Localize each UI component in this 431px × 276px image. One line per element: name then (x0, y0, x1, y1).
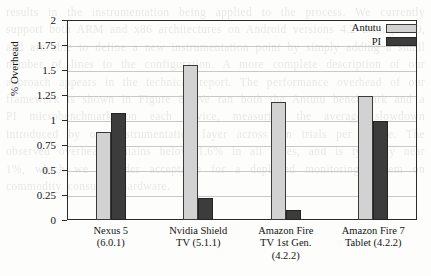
legend-label-antutu: Antutu (352, 23, 381, 34)
legend-label-pi: PI (372, 37, 381, 48)
bar-pi-2 (286, 210, 301, 220)
y-tick-mark (62, 220, 67, 221)
y-tick-label: 1 (0, 115, 56, 126)
bar-antutu-2 (271, 102, 286, 220)
y-tick-label: 0 (0, 215, 56, 226)
bar-antutu-3 (358, 96, 373, 220)
y-tick-label: 0.5 (0, 165, 56, 176)
legend: Antutu PI (352, 23, 417, 47)
y-tick-label: 0.25 (0, 190, 56, 201)
bar-pi-1 (198, 198, 213, 220)
legend-item-pi: PI (372, 37, 417, 48)
bar-antutu-1 (183, 65, 198, 220)
bar-antutu-0 (96, 132, 111, 220)
x-category-label-1: Nvidia Shield TV (5.1.1) (149, 225, 249, 250)
x-category-label-3: Amazon Fire 7 Tablet (4.2.2) (324, 225, 424, 250)
y-tick-label: 1.75 (0, 40, 56, 51)
y-tick-label: 1.5 (0, 65, 56, 76)
bars-layer (67, 20, 417, 220)
y-tick-label: 2 (0, 15, 56, 26)
legend-swatch-pi (386, 37, 417, 46)
chart-figure: results in the instrumentation being app… (0, 0, 431, 276)
x-category-label-2: Amazon Fire TV 1st Gen. (4.2.2) (236, 225, 336, 262)
legend-swatch-antutu (386, 24, 417, 33)
y-tick-label: 1.25 (0, 90, 56, 101)
bar-pi-0 (111, 113, 126, 220)
x-category-label-0: Nexus 5 (6.0.1) (61, 225, 161, 250)
legend-item-antutu: Antutu (352, 23, 417, 34)
y-tick-label: 0.75 (0, 140, 56, 151)
bar-pi-3 (373, 121, 388, 220)
